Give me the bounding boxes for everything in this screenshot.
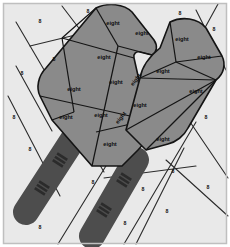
bg-right-edge-label: 8 — [207, 184, 210, 190]
glove-a-left-palm-label: eight — [67, 86, 80, 92]
bg-right-mid-label: 8 — [205, 114, 208, 120]
glove-b-right-palm-label: eight — [189, 88, 202, 94]
glove-b-upper-mid-label: eight — [156, 68, 169, 74]
bg-top-mid-label: 8 — [87, 8, 90, 14]
glove-b-thumbside-label: eight — [197, 54, 210, 60]
glove-a-mid-lower-label: eight — [94, 112, 107, 118]
bg-left-mid-label: 8 — [21, 70, 24, 76]
glove-b-thumbtip-label: eight — [175, 36, 188, 42]
bg-left-lower-label: 8 — [13, 114, 16, 120]
glove-a-center-palm-label: eight — [109, 79, 122, 85]
bg-center-bottom-label: 8 — [92, 179, 95, 185]
bg-top-right-edge-label: 8 — [213, 26, 216, 32]
glove-a-left-lower-label: eight — [59, 114, 72, 120]
glove-a-thumbside-label: eight — [135, 30, 148, 36]
bg-left-upper-label: 8 — [53, 56, 56, 62]
glove-b-mid-palm-label: eight — [133, 102, 146, 108]
segmented-glove-illustration: 8888888888888888 eighteighteighteighteig… — [0, 0, 230, 247]
glove-b-lower-right-label: eight — [156, 136, 169, 142]
bg-center-foot-label: 8 — [124, 220, 127, 226]
bg-right-lower2-label: 8 — [142, 186, 145, 192]
bg-right-bottom-label: 8 — [166, 208, 169, 214]
glove-a-bottom-label: eight — [103, 141, 116, 147]
bg-right-lower-label: 8 — [172, 168, 175, 174]
bg-left-foot-label: 8 — [39, 224, 42, 230]
glove-a-thumbtip-label: eight — [106, 20, 119, 26]
bg-left-bottom-label: 8 — [29, 146, 32, 152]
bg-top-right-label: 8 — [179, 10, 182, 16]
bg-top-left-label: 8 — [39, 18, 42, 24]
image-canvas: 8888888888888888 eighteighteighteighteig… — [0, 0, 230, 247]
glove-a-upper-mid-label: eight — [97, 54, 110, 60]
